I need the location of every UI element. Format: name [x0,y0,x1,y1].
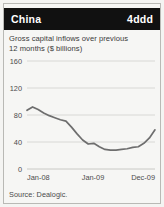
y-tick-label: 120 [10,84,22,93]
y-tick-label: 80 [14,111,22,120]
x-tick-label: Jan-08 [27,173,50,182]
source-note: Source: Dealogic. [9,190,67,199]
chart-figure: China 4ddd Gross capital inflows over pr… [0,0,164,207]
data-series-line [27,107,155,150]
chart-svg: 160 120 80 40 0 Jan-08 Jan-09 Dec-09 [0,0,164,207]
y-axis-tick-labels: 160 120 80 40 0 [10,57,22,174]
x-tick-label: Jan-09 [82,173,105,182]
y-tick-label: 0 [18,165,22,174]
x-tick-label: Dec-09 [131,173,155,182]
y-tick-label: 160 [10,57,22,66]
plot-area: 160 120 80 40 0 Jan-08 Jan-09 Dec-09 [0,0,164,207]
y-tick-label: 40 [14,138,22,147]
x-axis-tick-labels: Jan-08 Jan-09 Dec-09 [27,173,155,182]
